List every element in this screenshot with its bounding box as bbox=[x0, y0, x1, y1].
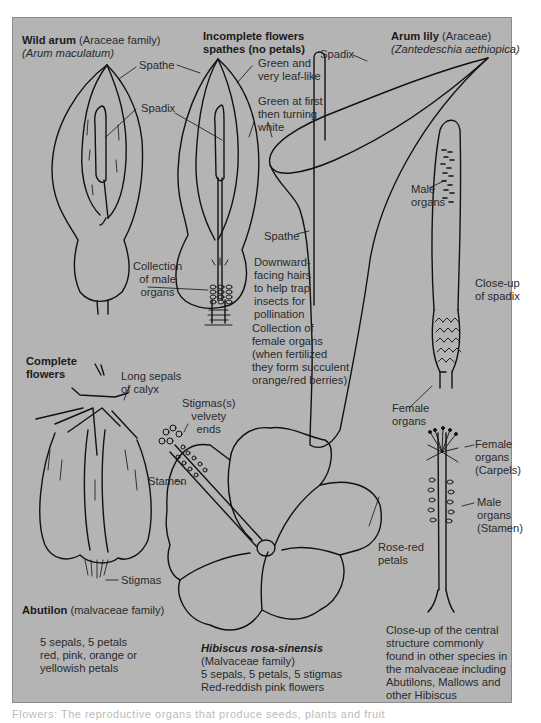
closeup-spadix-label: Close-up of spadix bbox=[475, 277, 520, 303]
arum-lily-female-organs-label: Female organs bbox=[392, 402, 429, 428]
hibiscus-family: (Malvaceae family) bbox=[201, 655, 295, 668]
green-leaf-like-label: Green and very leaf-like bbox=[258, 57, 321, 83]
hibiscus-description: 5 sepals, 5 petals, 5 stigmas Red-reddis… bbox=[201, 668, 342, 694]
abutilon-name: Abutilon bbox=[22, 604, 67, 616]
wild-arum-family: (Araceae family) bbox=[76, 34, 161, 46]
long-sepals-label: Long sepals of calyx bbox=[121, 370, 181, 396]
abutilon-description: 5 sepals, 5 petals red, pink, orange or … bbox=[40, 636, 137, 675]
wild-arum-spadix-label: Spadix bbox=[141, 102, 175, 115]
incomplete-flower-drawing bbox=[176, 59, 259, 325]
incomplete-flowers-heading-2: spathes (no petals) bbox=[203, 43, 305, 56]
abutilon-stigmas-label: Stigmas bbox=[121, 574, 161, 587]
abutilon-family: (malvaceae family) bbox=[67, 604, 164, 616]
hibiscus-title: Hibiscus rosa-sinensis bbox=[201, 642, 323, 655]
abutilon-drawing bbox=[36, 364, 151, 578]
rose-red-petals-label: Rose-red petals bbox=[378, 541, 424, 567]
wild-arum-drawing bbox=[52, 65, 143, 314]
abutilon-title: Abutilon (malvaceae family) bbox=[22, 604, 164, 617]
arum-lily-family: (Araceae) bbox=[439, 30, 491, 42]
arum-lily-spathe-label: Spathe bbox=[264, 230, 299, 243]
arum-lily-title: Arum lily (Araceae) bbox=[391, 30, 491, 43]
figure-caption: Flowers: The reproductive organs that pr… bbox=[12, 708, 385, 723]
arum-lily-male-organs-label: Male organs bbox=[411, 183, 445, 209]
hibiscus-drawing bbox=[159, 425, 381, 630]
wild-arum-spathe-label: Spathe bbox=[139, 59, 174, 72]
female-carpels-label: Female organs (Carpels) bbox=[475, 438, 521, 477]
arum-lily-name: Arum lily bbox=[391, 30, 439, 42]
stigmas-velvety-label: Stigmas(s) velvety ends bbox=[182, 397, 235, 436]
stamen-label: Stamen bbox=[148, 475, 187, 488]
wild-arum-name: Wild arum bbox=[22, 34, 76, 46]
central-structure-drawing bbox=[427, 427, 458, 613]
wild-arum-title: Wild arum (Araceae family) bbox=[22, 34, 161, 47]
green-turning-white-label: Green at first then turning white bbox=[258, 95, 323, 134]
central-structure-description: Close-up of the central structure common… bbox=[386, 624, 507, 702]
downward-hairs-label: Downward- facing hairs to help trap inse… bbox=[254, 256, 311, 321]
complete-flowers-heading: Complete flowers bbox=[26, 355, 77, 381]
wild-arum-species: (Arum maculatum) bbox=[22, 47, 114, 60]
male-stamen-label: Male organs (Stamen) bbox=[477, 496, 523, 535]
arum-lily-species: (Zantedeschia aethiopica) bbox=[391, 43, 520, 56]
male-organs-collection-label: Collection of male organs bbox=[133, 260, 182, 299]
arum-lily-spadix-label: Spadix bbox=[320, 48, 354, 61]
female-organs-collection-label: Collection of female organs (when fertil… bbox=[252, 322, 349, 387]
incomplete-flowers-heading-1: Incomplete flowers bbox=[203, 30, 304, 43]
